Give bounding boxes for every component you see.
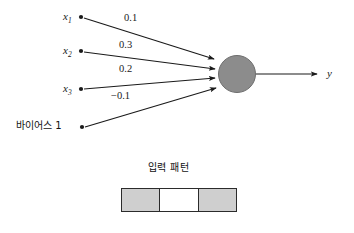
input-label-x1: x1 <box>63 11 72 25</box>
figure-canvas: x1 x2 x3 바이어스 1 0.1 0.3 0.2 −0.1 y 입력 패턴 <box>0 0 354 233</box>
input-dot-x2 <box>79 49 83 53</box>
weight-label-x1: 0.1 <box>124 13 137 24</box>
pattern-caption: 입력 패턴 <box>148 163 189 173</box>
weight-label-x3: 0.2 <box>119 64 132 75</box>
connection-x2 <box>84 52 215 69</box>
input-label-x2: x2 <box>63 45 72 59</box>
input-dot-x1 <box>79 15 83 19</box>
neuron-node <box>219 56 256 93</box>
pattern-cell-1 <box>160 189 198 211</box>
pattern-cell-0 <box>122 189 160 211</box>
input-label-bias: 바이어스 1 <box>16 121 62 131</box>
output-label-y: y <box>327 68 332 79</box>
connection-x3 <box>84 78 215 89</box>
input-dot-x3 <box>79 87 83 91</box>
connection-x1 <box>84 18 214 59</box>
input-label-x3: x3 <box>63 83 72 97</box>
input-dot-bias <box>80 125 84 129</box>
pattern-cell-2 <box>199 189 236 211</box>
weight-label-bias: −0.1 <box>111 91 130 102</box>
weight-label-x2: 0.3 <box>119 40 132 51</box>
connection-bias <box>85 88 216 127</box>
input-pattern-grid <box>121 188 237 212</box>
